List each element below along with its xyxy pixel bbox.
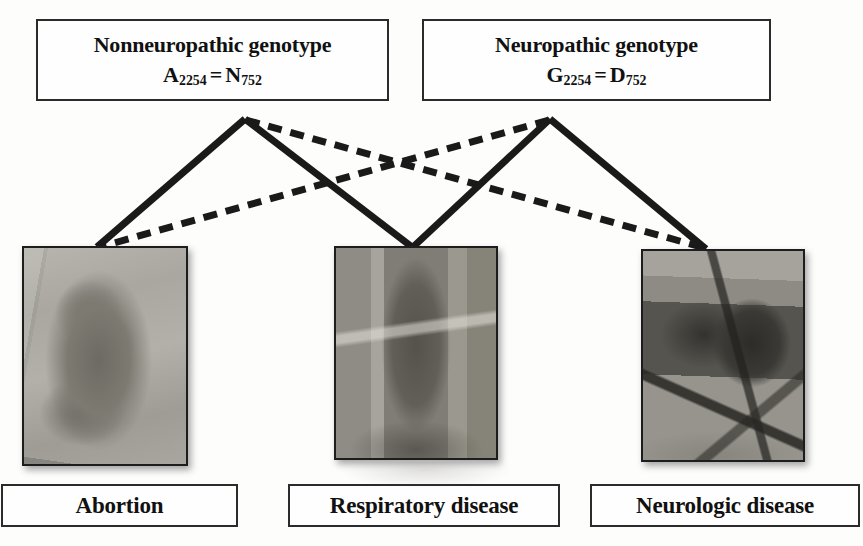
genotype-equals-sign: = — [210, 62, 223, 87]
genotype-nucleotide-letter: G — [546, 62, 563, 87]
disease-label-box-abortion: Abortion — [1, 484, 238, 527]
genotype-aminoacid-position: 752 — [241, 73, 262, 88]
connector-neuropathic-to-abortion — [100, 120, 549, 247]
disease-label-neurologic: Neurologic disease — [636, 493, 814, 519]
genotype-nucleotide-letter: A — [163, 62, 179, 87]
connector-nonneuropathic-to-respiratory — [245, 119, 412, 247]
diagram-canvas: Nonneuropathic genotype A2254=N752 Neuro… — [0, 0, 863, 546]
genotype-aminoacid-letter: D — [610, 62, 626, 87]
genotype-box-nonneuropathic: Nonneuropathic genotype A2254=N752 — [36, 19, 389, 101]
genotype-title-nonneuropathic: Nonneuropathic genotype — [94, 33, 332, 57]
disease-label-box-respiratory: Respiratory disease — [288, 484, 560, 527]
genotype-nucleotide-position: 2254 — [179, 73, 207, 88]
photo-neurologic-image — [643, 251, 803, 460]
connector-nonneuropathic-to-abortion — [97, 119, 245, 247]
genotype-aminoacid-letter: N — [225, 62, 241, 87]
connector-neuropathic-to-neurologic — [550, 119, 706, 249]
genotype-formula-nonneuropathic: A2254=N752 — [163, 63, 262, 87]
photo-abortion-image — [24, 248, 186, 464]
genotype-nucleotide-position: 2254 — [564, 73, 592, 88]
connector-neuropathic-to-respiratory — [413, 119, 550, 247]
genotype-equals-sign: = — [594, 62, 607, 87]
disease-label-respiratory: Respiratory disease — [330, 493, 518, 519]
disease-label-box-neurologic: Neurologic disease — [590, 484, 860, 527]
genotype-aminoacid-position: 752 — [626, 73, 647, 88]
genotype-title-neuropathic: Neuropathic genotype — [495, 33, 698, 57]
connector-nonneuropathic-to-neurologic — [246, 120, 701, 247]
photo-respiratory-image — [336, 248, 496, 458]
genotype-box-neuropathic: Neuropathic genotype G2254=D752 — [422, 19, 771, 101]
disease-label-abortion: Abortion — [76, 493, 164, 519]
photo-neurologic-horse-sling — [641, 249, 805, 462]
photo-abortion-fetus — [22, 246, 188, 466]
genotype-formula-neuropathic: G2254=D752 — [546, 63, 646, 87]
photo-respiratory-horse-head — [334, 246, 498, 460]
